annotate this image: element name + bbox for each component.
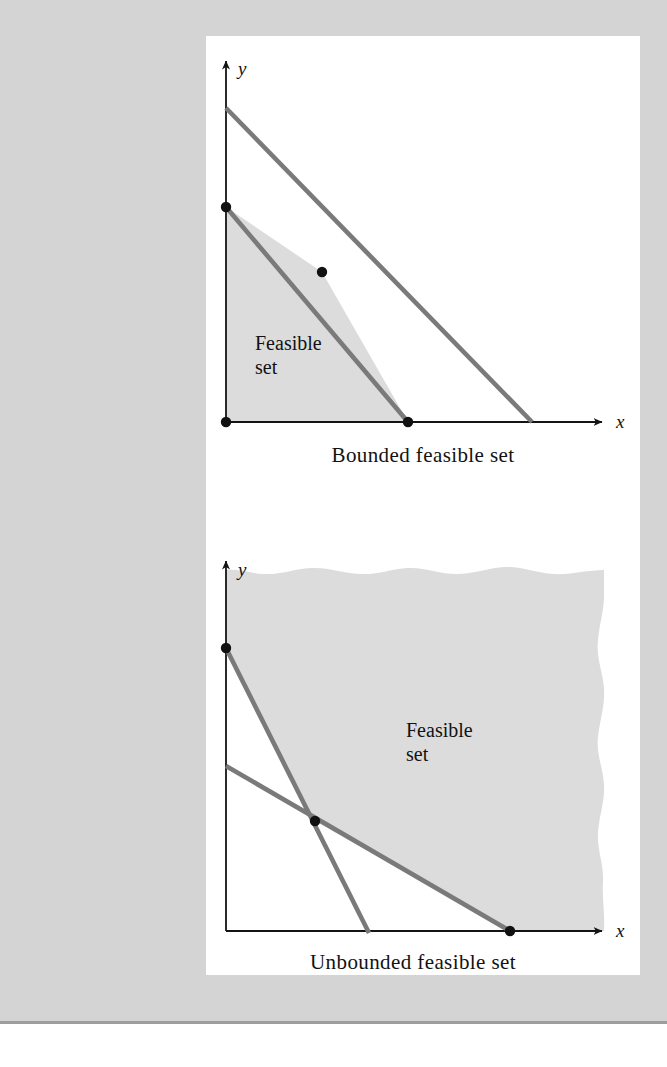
x-axis-label-unbounded: x xyxy=(615,920,625,941)
vertex-intersection-unbounded xyxy=(310,816,320,826)
page-bottom-margin xyxy=(0,1024,667,1067)
caption-bounded: Bounded feasible set xyxy=(332,443,515,467)
figure-graphics: y x Feasible set Bounded feasible set xyxy=(206,36,640,975)
chart-unbounded: y x Feasible set Unbounded feasible set xyxy=(221,559,625,974)
vertex-intersection-bounded xyxy=(317,267,327,277)
vertex-origin-bounded xyxy=(221,417,231,427)
region-label-unbounded-line2: set xyxy=(406,743,429,765)
vertex-y-intercept-bounded xyxy=(221,202,231,212)
vertex-x-intercept-bounded xyxy=(403,417,413,427)
region-label-bounded-line2: set xyxy=(255,356,278,378)
region-label-unbounded-line1: Feasible xyxy=(406,719,473,741)
figure-page: y x Feasible set Bounded feasible set xyxy=(0,0,667,1067)
y-axis-label-unbounded: y xyxy=(236,559,247,580)
region-label-bounded-line1: Feasible xyxy=(255,332,322,354)
vertex-x-intercept-unbounded xyxy=(505,926,515,936)
chart-bounded: y x Feasible set Bounded feasible set xyxy=(221,58,625,467)
x-axis-label-bounded: x xyxy=(615,411,625,432)
vertex-y-intercept-unbounded xyxy=(221,643,231,653)
figure-panel: y x Feasible set Bounded feasible set xyxy=(206,36,640,975)
caption-unbounded: Unbounded feasible set xyxy=(310,950,516,974)
y-axis-label-bounded: y xyxy=(236,58,247,79)
